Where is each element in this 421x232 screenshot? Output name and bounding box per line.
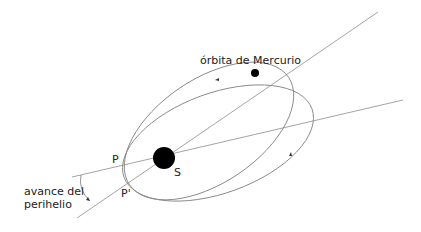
advance-label-line1: avance del xyxy=(24,186,84,198)
mercury xyxy=(251,69,259,77)
orbit-label: órbita de Mercurio xyxy=(200,55,301,67)
perihelion-axis xyxy=(72,100,403,177)
advance-label-line2: perihelio xyxy=(24,199,72,211)
orbit-arrow-top xyxy=(215,78,219,81)
sun xyxy=(153,147,175,169)
perihelion-label: P xyxy=(112,154,119,166)
sun-label: S xyxy=(174,167,181,179)
orbit-arrow-right xyxy=(289,152,292,156)
perihelion-prime-label: P' xyxy=(121,188,131,200)
